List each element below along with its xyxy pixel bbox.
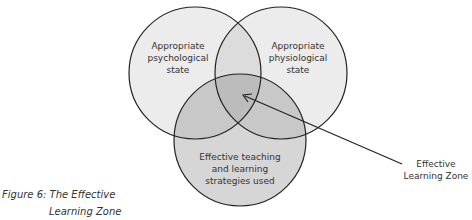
label-left: Appropriate psychological state	[138, 40, 218, 76]
figure-caption-line1: Figure 6: The Effective	[2, 189, 115, 200]
label-bottom: Effective teaching and learning strategi…	[190, 151, 290, 187]
callout-label: Effective Learning Zone	[396, 158, 472, 182]
figure-caption-line2: Learning Zone	[49, 206, 121, 217]
label-right: Appropriate physiological state	[258, 40, 338, 76]
venn-diagram	[0, 0, 472, 220]
